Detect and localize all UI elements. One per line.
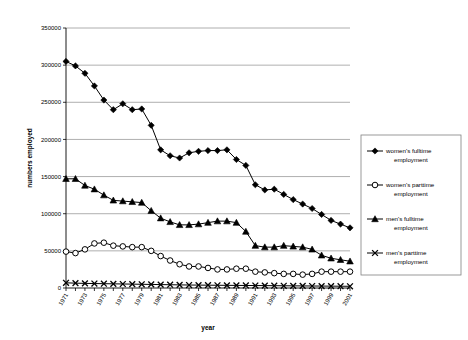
data-point-circle-open: [372, 182, 378, 188]
legend-label-cont: employment: [394, 190, 428, 197]
legend-label: men's fulltime: [386, 215, 424, 222]
data-point-circle-open: [120, 244, 126, 250]
data-point-circle-open: [309, 271, 315, 277]
data-point-circle-open: [101, 240, 107, 246]
y-axis-title: numbers employed: [26, 128, 34, 188]
legend-label-cont: employment: [394, 258, 428, 265]
y-tick-label: 250000: [41, 99, 62, 105]
data-point-circle-open: [148, 248, 154, 254]
data-point-circle-open: [196, 264, 202, 270]
legend-label: women's fulltime: [385, 147, 432, 154]
y-tick-label: 300000: [41, 62, 62, 68]
data-point-circle-open: [262, 270, 268, 276]
y-tick-label: 150000: [41, 174, 62, 180]
chart-container: 0500001000001500002000002500003000003500…: [0, 0, 468, 340]
data-point-circle-open: [300, 272, 306, 278]
data-point-circle-open: [129, 244, 135, 250]
data-point-circle-open: [338, 269, 344, 275]
y-tick-label: 50000: [44, 248, 61, 254]
legend-label: women's parttime: [385, 181, 435, 188]
data-point-circle-open: [347, 269, 353, 275]
y-tick-label: 100000: [41, 211, 62, 217]
data-point-circle-open: [167, 258, 173, 264]
data-point-circle-open: [177, 261, 183, 267]
data-point-circle-open: [271, 270, 277, 276]
legend-label: men's parttime: [386, 249, 427, 256]
chart-legend: women's fulltimeemploymentwomen's partti…: [361, 135, 461, 275]
data-point-circle-open: [111, 243, 117, 249]
data-point-circle-open: [328, 269, 334, 275]
data-point-circle-open: [139, 244, 145, 250]
data-point-circle-open: [205, 265, 211, 271]
legend-label-cont: employment: [394, 156, 428, 163]
data-point-circle-open: [234, 266, 240, 272]
data-point-circle-open: [281, 271, 287, 277]
data-point-circle-open: [73, 250, 79, 256]
data-point-circle-open: [186, 264, 192, 270]
employment-line-chart: 0500001000001500002000002500003000003500…: [0, 0, 468, 340]
data-point-circle-open: [224, 267, 230, 273]
data-point-circle-open: [253, 269, 259, 275]
data-point-circle-open: [158, 253, 164, 259]
y-tick-label: 200000: [41, 137, 62, 143]
data-point-circle-open: [82, 247, 88, 253]
legend-label-cont: employment: [394, 224, 428, 231]
y-tick-label: 350000: [41, 25, 62, 31]
data-point-circle-open: [215, 267, 221, 273]
data-point-circle-open: [319, 269, 325, 275]
data-point-circle-open: [243, 266, 249, 272]
x-axis-title: year: [201, 324, 215, 332]
data-point-circle-open: [92, 241, 98, 247]
data-point-circle-open: [290, 271, 296, 277]
data-point-circle-open: [63, 249, 69, 255]
